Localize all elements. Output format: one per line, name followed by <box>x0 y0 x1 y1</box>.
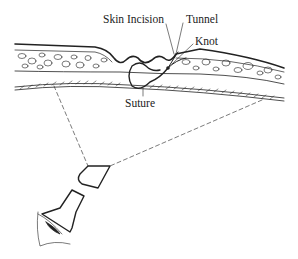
leader-tunnel <box>176 23 183 54</box>
label-skin-incision: Skin Incision <box>103 14 164 26</box>
scope-upper <box>78 166 110 188</box>
fascia-top <box>15 83 284 98</box>
leader-skin-incision <box>166 24 174 54</box>
diagram-drawing <box>0 0 298 259</box>
label-tunnel: Tunnel <box>186 14 218 26</box>
knot <box>166 66 170 70</box>
sight-line-right <box>110 100 262 166</box>
label-knot: Knot <box>195 36 218 48</box>
suture-loop <box>129 63 168 88</box>
suture-diagram: Skin Incision Tunnel Knot Suture <box>0 0 298 259</box>
sight-line-left <box>54 86 88 166</box>
label-suture: Suture <box>125 98 155 110</box>
